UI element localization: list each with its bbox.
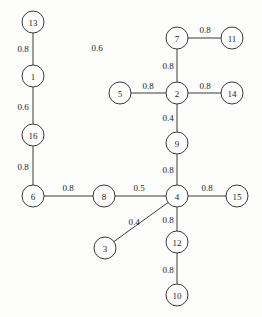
node-10[interactable]: 10 [166,284,188,306]
edge-weight-label: 0.8 [162,265,174,275]
edge-weight-label: 0.8 [162,165,174,175]
graph-canvas: 0.80.60.80.80.50.40.80.80.80.80.40.80.80… [0,0,262,317]
node-6[interactable]: 6 [22,185,44,207]
node-label: 15 [233,192,243,202]
node-label: 14 [228,89,238,99]
node-16[interactable]: 16 [22,124,44,146]
floating-weight-label: 0.6 [91,43,103,53]
node-label: 1 [31,72,36,82]
edge-weight-label: 0.8 [199,25,211,35]
node-11[interactable]: 11 [221,27,243,49]
edge-weight-label: 0.8 [62,183,74,193]
node-label: 3 [103,244,108,254]
node-15[interactable]: 15 [226,185,248,207]
edge-3-4 [114,202,168,241]
node-label: 2 [175,89,180,99]
nodes-layer: 13116683571121494151210 [22,11,248,306]
node-12[interactable]: 12 [166,231,188,253]
node-label: 4 [175,192,180,202]
edges-layer [33,33,226,284]
node-9[interactable]: 9 [166,132,188,154]
node-label: 12 [173,238,182,248]
node-label: 5 [118,89,123,99]
edge-weight-label: 0.6 [17,102,29,112]
node-5[interactable]: 5 [109,82,131,104]
node-2[interactable]: 2 [166,82,188,104]
node-label: 7 [175,34,180,44]
node-label: 6 [31,192,36,202]
node-4[interactable]: 4 [166,185,188,207]
edge-weight-label: 0.8 [162,61,174,71]
graph-svg: 0.80.60.80.80.50.40.80.80.80.80.40.80.80… [0,0,262,317]
edge-weight-label: 0.8 [17,162,29,172]
node-label: 8 [102,192,107,202]
node-8[interactable]: 8 [93,185,115,207]
node-7[interactable]: 7 [166,27,188,49]
edge-weight-label: 0.4 [162,113,174,123]
node-3[interactable]: 3 [94,237,116,259]
node-label: 9 [175,139,180,149]
node-label: 10 [173,291,183,301]
floating-labels-layer: 0.6 [91,43,103,53]
node-13[interactable]: 13 [22,11,44,33]
node-label: 11 [228,34,237,44]
edge-weight-label: 0.8 [201,183,213,193]
edge-weight-label: 0.5 [133,183,145,193]
node-1[interactable]: 1 [22,65,44,87]
node-label: 16 [29,131,39,141]
edge-weight-label: 0.8 [199,81,211,91]
node-label: 13 [29,18,39,28]
edge-weight-label: 0.8 [17,44,29,54]
node-14[interactable]: 14 [221,82,243,104]
edge-weight-label: 0.4 [128,217,140,227]
edge-weight-label: 0.8 [142,81,154,91]
edge-weight-label: 0.8 [162,215,174,225]
